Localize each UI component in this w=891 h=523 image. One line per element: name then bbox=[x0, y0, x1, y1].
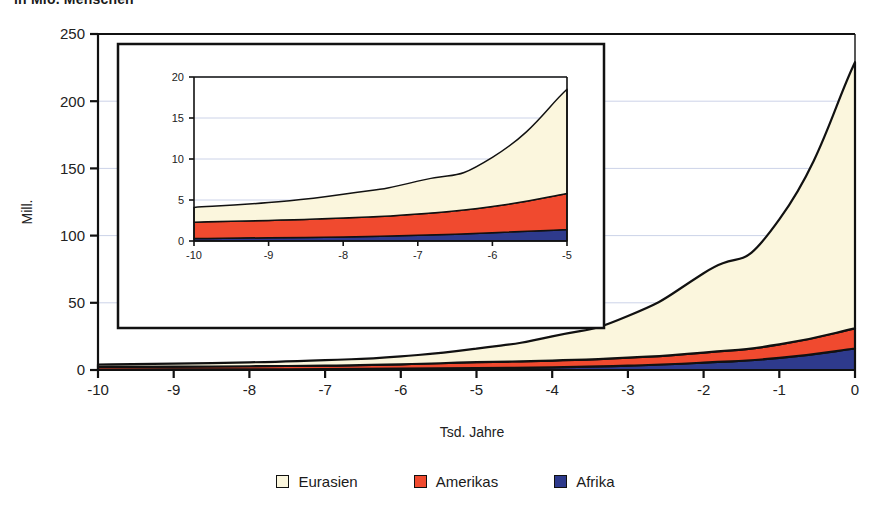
y-tick-label: 5 bbox=[178, 194, 184, 206]
stacked-area-chart: 050100150200250 -10-9-8-7-6-5-4-3-2-10 M… bbox=[0, 0, 891, 523]
legend-swatch-amerikas bbox=[414, 475, 427, 488]
x-tick-label: -5 bbox=[562, 249, 572, 261]
legend-label-amerikas: Amerikas bbox=[436, 474, 499, 489]
x-tick-label: -9 bbox=[264, 249, 274, 261]
inset-panel: 05101520 -10-9-8-7-6-5 bbox=[118, 44, 604, 328]
main-y-tick-labels: 050100150200250 bbox=[60, 25, 85, 378]
x-tick-label: -8 bbox=[338, 249, 348, 261]
legend-swatch-eurasien bbox=[276, 475, 289, 488]
x-tick-label: -10 bbox=[186, 249, 202, 261]
y-tick-label: 250 bbox=[60, 25, 85, 42]
x-tick-label: 0 bbox=[851, 381, 859, 398]
x-tick-label: -2 bbox=[697, 381, 710, 398]
chart-page: in Mio. Menschen 050100150200250 -10-9-8… bbox=[0, 0, 891, 523]
legend-label-afrika: Afrika bbox=[576, 474, 614, 489]
x-tick-label: -8 bbox=[243, 381, 256, 398]
x-tick-label: -7 bbox=[413, 249, 423, 261]
y-tick-label: 50 bbox=[68, 294, 85, 311]
legend-swatch-afrika bbox=[554, 475, 567, 488]
y-axis-title: Mill. bbox=[19, 200, 35, 225]
x-tick-label: -6 bbox=[488, 249, 498, 261]
legend-label-eurasien: Eurasien bbox=[298, 474, 357, 489]
x-tick-label: -1 bbox=[773, 381, 786, 398]
y-tick-label: 200 bbox=[60, 93, 85, 110]
legend-item-eurasien[interactable]: Eurasien bbox=[276, 474, 357, 489]
x-tick-label: -3 bbox=[621, 381, 634, 398]
x-tick-label: -7 bbox=[318, 381, 331, 398]
x-axis-title: Tsd. Jahre bbox=[440, 424, 505, 440]
chart-legend: Eurasien Amerikas Afrika bbox=[0, 474, 891, 489]
y-tick-label: 100 bbox=[60, 227, 85, 244]
y-tick-label: 15 bbox=[172, 112, 184, 124]
x-tick-label: -9 bbox=[167, 381, 180, 398]
x-tick-label: -5 bbox=[470, 381, 483, 398]
main-x-tick-labels: -10-9-8-7-6-5-4-3-2-10 bbox=[87, 381, 859, 398]
x-tick-label: -6 bbox=[394, 381, 407, 398]
y-tick-label: 0 bbox=[77, 361, 85, 378]
legend-item-amerikas[interactable]: Amerikas bbox=[414, 474, 499, 489]
x-tick-label: -10 bbox=[87, 381, 109, 398]
y-tick-label: 10 bbox=[172, 153, 184, 165]
y-tick-label: 150 bbox=[60, 160, 85, 177]
page-title: in Mio. Menschen bbox=[14, 0, 134, 7]
x-tick-label: -4 bbox=[546, 381, 559, 398]
y-tick-label: 0 bbox=[178, 235, 184, 247]
y-tick-label: 20 bbox=[172, 71, 184, 83]
legend-item-afrika[interactable]: Afrika bbox=[554, 474, 614, 489]
